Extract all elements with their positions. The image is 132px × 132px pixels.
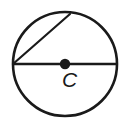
center-point-label: C: [62, 69, 77, 90]
geometry-figure: C: [0, 0, 132, 132]
geometry-canvas: [0, 0, 132, 132]
chord-line: [13, 14, 70, 64]
